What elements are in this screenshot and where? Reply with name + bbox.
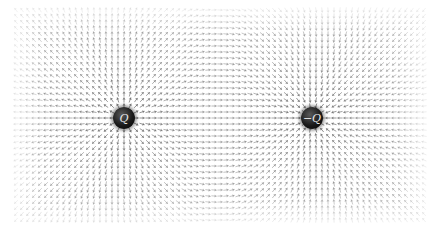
- negative-charge: −Q: [301, 107, 323, 129]
- vector-field: [0, 0, 441, 236]
- charge-label: Q: [119, 113, 128, 124]
- charge-label: −Q: [303, 113, 321, 124]
- positive-charge: Q: [113, 107, 135, 129]
